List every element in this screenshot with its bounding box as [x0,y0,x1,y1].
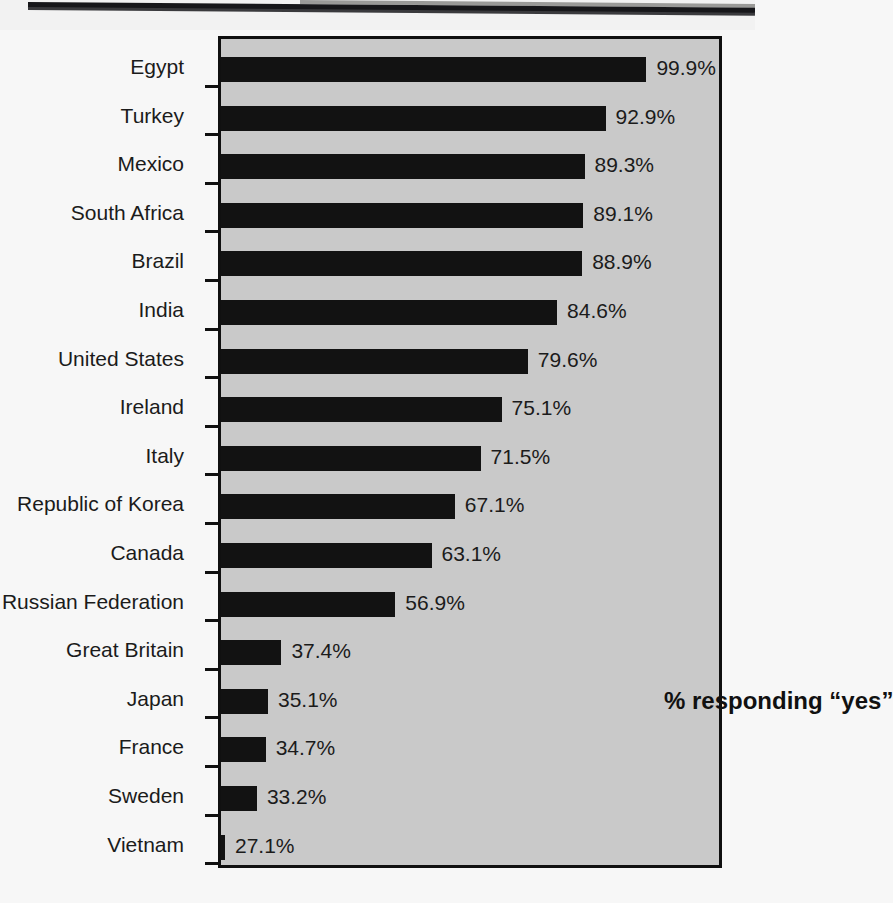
bar[interactable] [221,57,646,82]
axis-tick [205,85,218,88]
bar-chart: EgyptTurkeyMexicoSouth AfricaBrazilIndia… [0,30,755,903]
axis-tick [205,279,218,282]
category-label: Sweden [108,783,184,809]
bar-value-label: 92.9% [616,103,676,131]
category-label: Ireland [120,394,184,420]
category-label: United States [58,346,184,372]
axis-tick [205,522,218,525]
axis-tick [205,473,218,476]
bar-value-label: 56.9% [405,589,465,617]
axis-tick [205,425,218,428]
category-label: Great Britain [66,637,184,663]
bar-value-label: 63.1% [442,540,502,568]
bar[interactable] [221,543,432,568]
bar-value-label: 89.1% [593,200,653,228]
axis-tick [205,182,218,185]
bar[interactable] [221,786,257,811]
chart-annotation: % responding “yes” [664,687,893,715]
axis-tick [205,133,218,136]
bar-value-label: 33.2% [267,783,327,811]
axis-tick [205,376,218,379]
bar[interactable] [221,397,502,422]
category-label: Canada [110,540,184,566]
plot-area: 99.9%92.9%89.3%89.1%88.9%84.6%79.6%75.1%… [218,36,722,868]
axis-tick [205,619,218,622]
bar[interactable] [221,300,557,325]
category-label: France [119,734,184,760]
bar[interactable] [221,106,606,131]
bar-value-label: 88.9% [592,248,652,276]
bar[interactable] [221,592,395,617]
bar-value-label: 79.6% [538,346,598,374]
bar-value-label: 71.5% [491,443,551,471]
bar[interactable] [221,689,268,714]
category-label: Vietnam [107,832,184,858]
bar[interactable] [221,154,585,179]
category-label: Japan [127,686,184,712]
category-label: Republic of Korea [17,491,184,517]
bar[interactable] [221,446,481,471]
category-label: Russian Federation [2,589,184,615]
axis-tick [205,716,218,719]
bar[interactable] [221,251,582,276]
category-label: India [138,297,184,323]
category-label: Mexico [117,151,184,177]
category-label: Turkey [121,103,184,129]
category-label: Brazil [131,248,184,274]
bar-value-label: 99.9% [656,54,716,82]
bar-value-label: 67.1% [465,491,525,519]
bar[interactable] [221,835,225,860]
bar[interactable] [221,349,528,374]
category-label: Italy [145,443,184,469]
bar[interactable] [221,640,281,665]
axis-tick [205,328,218,331]
axis-tick [205,814,218,817]
bar-value-label: 34.7% [276,734,336,762]
axis-tick [205,571,218,574]
axis-tick [205,668,218,671]
axis-tick [205,862,218,865]
scanned-page-edge [0,0,755,30]
bar-value-label: 89.3% [595,151,655,179]
category-label: Egypt [130,54,184,80]
bars-layer: 99.9%92.9%89.3%89.1%88.9%84.6%79.6%75.1%… [221,39,719,865]
axis-tick [205,230,218,233]
bar-value-label: 84.6% [567,297,627,325]
category-axis: EgyptTurkeyMexicoSouth AfricaBrazilIndia… [0,30,218,903]
bar-value-label: 27.1% [235,832,295,860]
category-label: South Africa [71,200,184,226]
bar-value-label: 75.1% [512,394,572,422]
axis-tick [205,765,218,768]
bar[interactable] [221,203,583,228]
bar[interactable] [221,737,266,762]
bar-value-label: 35.1% [278,686,338,714]
bar[interactable] [221,494,455,519]
bar-value-label: 37.4% [291,637,351,665]
